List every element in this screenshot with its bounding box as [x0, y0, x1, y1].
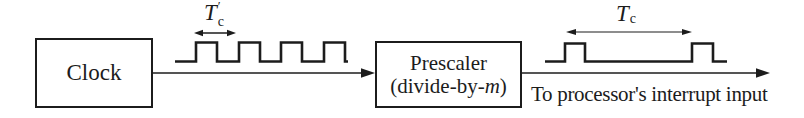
output-caption: To processor's interrupt input	[531, 82, 768, 107]
subscript-c: c	[630, 12, 636, 26]
prescaler-output-waveform	[545, 44, 727, 62]
clock-period-arrow	[194, 30, 236, 36]
clock-to-prescaler-arrow	[153, 68, 375, 78]
prime-mark: ′	[218, 1, 224, 10]
prescaler-to-processor-arrow	[522, 68, 770, 78]
output-period-label: T c	[616, 2, 636, 26]
prescaler-divisor-m: m	[485, 74, 500, 98]
prescaler-box: Prescaler (divide-by-m)	[375, 41, 522, 108]
subscript-c: c	[218, 15, 224, 28]
clock-box-label: Clock	[67, 60, 122, 86]
prescaler-label-line1: Prescaler	[410, 52, 487, 75]
timer-prescaler-diagram: Clock Prescaler (divide-by-m) T ′ c T c …	[0, 0, 804, 118]
prescaler-label-line2: (divide-by-m)	[390, 75, 507, 98]
clock-waveform	[175, 43, 348, 62]
output-period-arrow	[566, 29, 692, 35]
clock-box: Clock	[35, 38, 153, 108]
clock-period-label: T ′ c	[204, 1, 224, 28]
